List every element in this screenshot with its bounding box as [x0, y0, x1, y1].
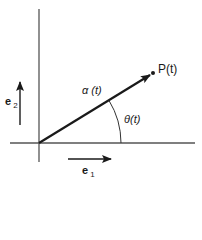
e2-symbol: e	[5, 95, 11, 107]
e1-subscript: 1	[90, 170, 94, 179]
point-label: P(t)	[158, 63, 177, 75]
angle-arc	[109, 101, 121, 144]
e1-label: e1	[82, 165, 95, 179]
point-p	[151, 71, 155, 75]
e2-label: e2	[5, 96, 18, 110]
vector-label: α (t)	[82, 85, 102, 96]
e2-subscript: 2	[13, 101, 17, 110]
angle-label: θ(t)	[124, 114, 140, 125]
e1-symbol: e	[82, 164, 88, 176]
